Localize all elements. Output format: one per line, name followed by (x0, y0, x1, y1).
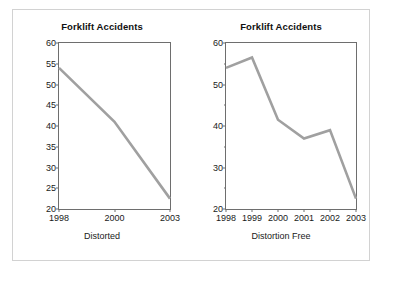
ytick-mark-distortion-free (223, 167, 226, 168)
ytick-mark-distorted (56, 84, 59, 85)
ytick-mark-distortion-free (223, 84, 226, 85)
ytick-mark-distorted (56, 105, 59, 106)
chart-title-distortion-free: Forklift Accidents (191, 21, 371, 32)
xtick-mark-distortion-free (278, 209, 279, 212)
ytick-mark-minor-distortion-free (224, 188, 226, 189)
xtick-label-distortion-free: 1999 (242, 213, 262, 223)
ytick-label-distortion-free: 50 (213, 80, 223, 90)
ytick-mark-distorted (56, 126, 59, 127)
ytick-label-distorted: 60 (46, 38, 56, 48)
ytick-label-distorted: 30 (46, 163, 56, 173)
ytick-mark-distorted (56, 146, 59, 147)
xtick-label-distorted: 1998 (49, 213, 69, 223)
ytick-label-distorted: 45 (46, 100, 56, 110)
xtick-mark-distortion-free (252, 209, 253, 212)
ytick-label-distorted: 40 (46, 121, 56, 131)
ytick-mark-distorted (56, 167, 59, 168)
ytick-label-distorted: 50 (46, 80, 56, 90)
series-line-distorted (59, 43, 170, 209)
xtick-label-distorted: 2003 (160, 213, 180, 223)
xtick-mark-distorted (114, 209, 115, 212)
xtick-mark-distortion-free (330, 209, 331, 212)
ytick-mark-minor-distortion-free (224, 63, 226, 64)
ytick-mark-minor-distortion-free (224, 146, 226, 147)
ytick-mark-distorted (56, 43, 59, 44)
ytick-label-distorted: 35 (46, 142, 56, 152)
xtick-label-distortion-free: 1998 (216, 213, 236, 223)
ytick-mark-distorted (56, 63, 59, 64)
xtick-mark-distortion-free (226, 209, 227, 212)
plot-area-distortion-free: 2030405060199819992000200120022003 (225, 42, 357, 210)
chart-panel-distorted: Forklift Accidents 202530354045505560199… (13, 10, 191, 260)
ytick-label-distorted: 55 (46, 59, 56, 69)
xtick-mark-distortion-free (304, 209, 305, 212)
axis-caption-distortion-free: Distortion Free (191, 231, 371, 241)
series-line-distortion-free (226, 43, 356, 209)
xtick-label-distortion-free: 2000 (268, 213, 288, 223)
xtick-label-distortion-free: 2002 (320, 213, 340, 223)
xtick-label-distortion-free: 2001 (294, 213, 314, 223)
xtick-label-distorted: 2000 (104, 213, 124, 223)
ytick-mark-distorted (56, 188, 59, 189)
figure-frame: Forklift Accidents 202530354045505560199… (12, 9, 370, 261)
ytick-label-distortion-free: 30 (213, 163, 223, 173)
axis-caption-distorted: Distorted (13, 231, 191, 241)
ytick-label-distortion-free: 60 (213, 38, 223, 48)
ytick-label-distortion-free: 40 (213, 121, 223, 131)
ytick-mark-distortion-free (223, 126, 226, 127)
xtick-mark-distorted (170, 209, 171, 212)
chart-title-distorted: Forklift Accidents (13, 21, 191, 32)
chart-panel-distortion-free: Forklift Accidents 203040506019981999200… (191, 10, 371, 260)
ytick-mark-minor-distortion-free (224, 105, 226, 106)
plot-area-distorted: 202530354045505560199820002003 (58, 42, 171, 210)
ytick-mark-distortion-free (223, 43, 226, 44)
xtick-label-distortion-free: 2003 (346, 213, 366, 223)
ytick-label-distorted: 25 (46, 183, 56, 193)
xtick-mark-distortion-free (356, 209, 357, 212)
xtick-mark-distorted (59, 209, 60, 212)
